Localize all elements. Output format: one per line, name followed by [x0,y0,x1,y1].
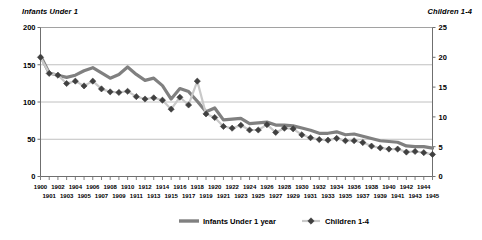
children-marker [151,95,157,101]
x-axis-ticks [41,177,433,181]
x-axis-tick-label: 1914 [156,184,170,190]
x-axis-tick-label: 1906 [86,184,100,190]
x-axis-tick-label: 1916 [173,184,187,190]
x-axis-tick-label: 1926 [260,184,274,190]
x-axis-tick-label: 1905 [77,193,91,199]
x-axis-tick-label: 1934 [330,184,344,190]
x-axis-tick-label: 1911 [130,193,144,199]
right-axis-tick-label: 15 [439,83,447,92]
x-axis-tick-label: 1920 [208,184,222,190]
legend-label-infants: Infants Under 1 year [203,217,276,226]
x-axis-tick-label: 1925 [252,193,266,199]
x-axis-tick-label: 1900 [34,184,48,190]
x-axis-tick-label: 1910 [121,184,135,190]
right-axis-tick-labels: 0510152025 [433,23,447,181]
x-axis-tick-label: 1907 [95,193,109,199]
x-axis-tick-label: 1924 [243,184,257,190]
x-axis-tick-label: 1915 [164,193,178,199]
x-axis-tick-label: 1936 [347,184,361,190]
x-axis-tick-label: 1909 [112,193,126,199]
left-axis-tick-label: 200 [23,23,36,32]
x-axis-tick-label: 1933 [321,193,335,199]
legend-label-children: Children 1-4 [325,217,370,226]
x-axis-tick-label: 1945 [426,193,440,199]
left-axis-tick-labels: 050100150200 [23,23,41,181]
x-axis-tick-label: 1938 [365,184,379,190]
right-axis-tick-label: 25 [439,23,447,32]
x-axis-tick-label: 1931 [304,193,318,199]
right-axis-tick-label: 20 [439,53,447,62]
x-axis-tick-label: 1921 [217,193,231,199]
x-axis-tick-label: 1944 [417,184,431,190]
x-axis-tick-label: 1913 [147,193,161,199]
x-axis-tick-label: 1919 [199,193,213,199]
children-marker [307,135,313,141]
children-marker [386,146,392,152]
children-marker [325,137,331,143]
mortality-line-chart: 050100150200 0510152025 1900190219041906… [0,0,482,240]
children-marker [421,150,427,156]
right-axis-tick-label: 0 [439,172,443,181]
children-marker [368,143,374,149]
children-marker [412,148,418,154]
x-axis-tick-label: 1937 [356,193,370,199]
x-axis-tick-labels-odd: 1901190319051907190919111913191519171919… [43,193,440,199]
x-axis-tick-label: 1918 [191,184,205,190]
children-marker [342,138,348,144]
x-axis-tick-label: 1902 [51,184,65,190]
legend-swatch-children-marker [308,218,314,224]
children-marker [429,151,435,157]
left-axis-tick-label: 50 [27,135,35,144]
x-axis-tick-label: 1929 [286,193,300,199]
children-marker [107,89,113,95]
x-axis-tick-label: 1927 [269,193,283,199]
x-axis-tick-label: 1941 [391,193,405,199]
x-axis-tick-label: 1943 [408,193,422,199]
x-axis-tick-label: 1903 [60,193,74,199]
children-marker [316,136,322,142]
children-marker [351,138,357,144]
x-axis-tick-label: 1908 [104,184,118,190]
children-marker [334,135,340,141]
x-axis-tick-label: 1939 [374,193,388,199]
x-axis-tick-label: 1901 [43,193,57,199]
x-axis-tick-label: 1912 [138,184,152,190]
chart-legend: Infants Under 1 yearChildren 1-4 [179,217,370,226]
left-axis-tick-label: 0 [31,172,35,181]
x-axis-tick-label: 1942 [400,184,414,190]
x-axis-tick-label: 1935 [339,193,353,199]
chart-container: Infants Under 1 Children 1-4 05010015020… [0,0,482,240]
x-axis-tick-label: 1930 [295,184,309,190]
children-marker [403,149,409,155]
x-axis-tick-label: 1940 [382,184,396,190]
children-marker [377,145,383,151]
x-axis-tick-label: 1922 [225,184,239,190]
children-marker [360,139,366,145]
children-marker [116,89,122,95]
x-axis-tick-labels-even: 1900190219041906190819101912191419161918… [34,184,431,190]
children-marker [142,96,148,102]
children-marker [194,78,200,84]
gridlines [41,28,433,140]
right-axis-tick-label: 5 [439,143,443,152]
children-marker [395,146,401,152]
children-marker [229,125,235,131]
x-axis-tick-label: 1923 [234,193,248,199]
right-axis-tick-label: 10 [439,113,447,122]
x-axis-tick-label: 1932 [313,184,327,190]
left-axis-tick-label: 100 [23,98,36,107]
x-axis-tick-label: 1904 [69,184,83,190]
x-axis-tick-label: 1928 [278,184,292,190]
left-axis-tick-label: 150 [23,61,36,70]
x-axis-tick-label: 1917 [182,193,196,199]
